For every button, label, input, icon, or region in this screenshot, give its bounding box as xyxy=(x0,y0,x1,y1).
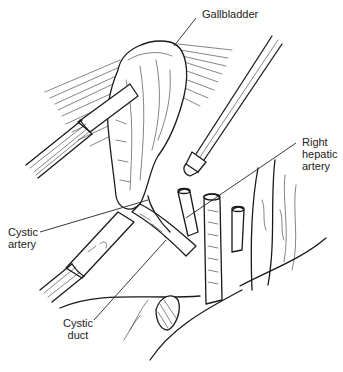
label-right-hepatic-artery: Right hepatic artery xyxy=(302,136,337,172)
label-cystic-duct: Cystic duct xyxy=(63,317,93,341)
gallbladder-shape xyxy=(108,41,187,209)
illustration xyxy=(0,0,343,372)
dissector-instrument xyxy=(184,36,282,176)
liver-tissue xyxy=(240,160,326,290)
common-bile-duct xyxy=(204,194,222,304)
label-cystic-artery: Cystic artery xyxy=(8,226,38,250)
surgical-diagram: Gallbladder Right hepatic artery Cystic … xyxy=(0,0,343,372)
leader-gallbladder xyxy=(174,18,196,46)
lower-left-grasper xyxy=(40,212,134,302)
label-gallbladder: Gallbladder xyxy=(202,8,258,20)
leader-cystic-artery xyxy=(40,200,148,232)
